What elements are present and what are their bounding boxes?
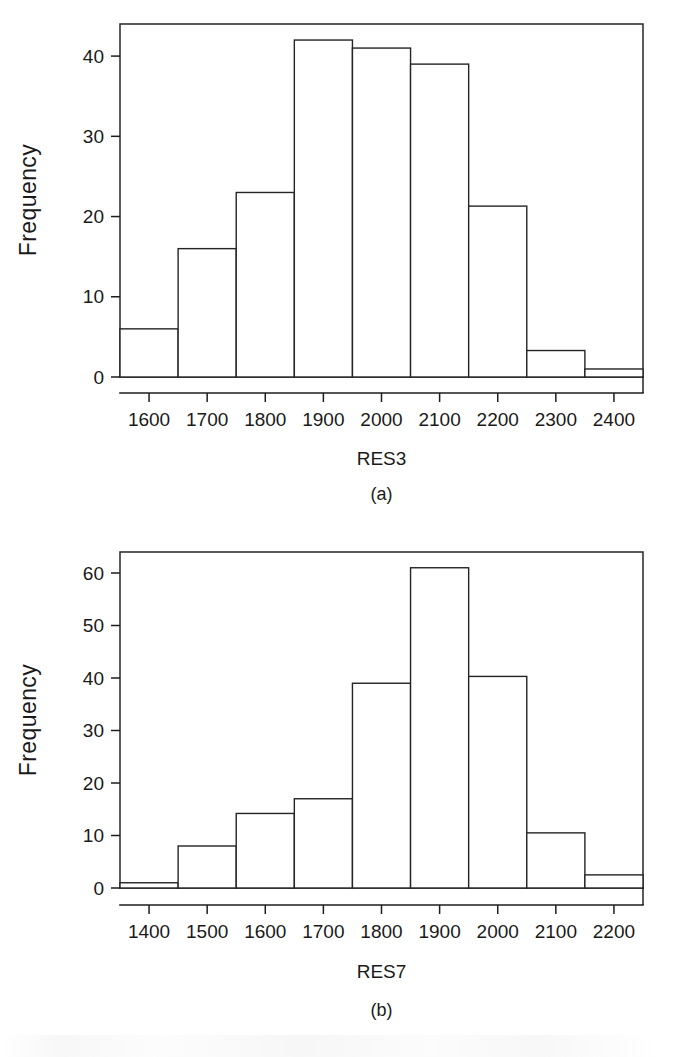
x-axis-tick-label: 1800 [244,409,286,430]
y-axis-tick-label: 30 [83,720,104,741]
x-axis-tick-label: 1400 [128,921,170,942]
x-axis-tick-label: 2000 [360,409,402,430]
histogram-chart-b: 0102030405060140015001600170018001900200… [0,520,673,1057]
histogram-bar [294,799,352,888]
x-axis-tick-label: 2100 [418,409,460,430]
histogram-bar [469,676,527,888]
x-axis-title: RES7 [357,961,407,982]
histogram-bar [469,206,527,377]
x-axis-tick-label: 2100 [535,921,577,942]
histogram-bar [294,40,352,377]
x-axis-tick-label: 2300 [535,409,577,430]
y-axis-title: Frequency [15,144,41,256]
histogram-chart-a: 0102030401600170018001900200021002200230… [0,0,673,520]
y-axis-tick-label: 60 [83,563,104,584]
histogram-bar [236,192,294,377]
x-axis-tick-label: 1600 [128,409,170,430]
histogram-bar [527,351,585,377]
x-axis-tick-label: 1900 [418,921,460,942]
y-axis-tick-label: 0 [93,878,104,899]
histogram-bar [120,329,178,377]
histogram-bar [585,369,643,377]
histogram-bar [236,813,294,888]
histogram-bar [178,846,236,888]
histogram-panel-b: 0102030405060140015001600170018001900200… [0,520,673,1057]
x-axis-tick-label: 2000 [477,921,519,942]
x-axis-tick-label: 2200 [477,409,519,430]
histogram-bar [585,875,643,888]
x-axis-tick-label: 1600 [244,921,286,942]
y-axis-tick-label: 10 [83,286,104,307]
panel-caption: (a) [371,484,393,504]
y-axis-tick-label: 20 [83,773,104,794]
histogram-panel-a: 0102030401600170018001900200021002200230… [0,0,673,520]
y-axis-tick-label: 10 [83,825,104,846]
x-axis-tick-label: 1500 [186,921,228,942]
y-axis-tick-label: 40 [83,46,104,67]
x-axis-tick-label: 2200 [593,921,635,942]
y-axis-tick-label: 30 [83,126,104,147]
histogram-bar [352,48,410,377]
histogram-bar [120,883,178,888]
y-axis-tick-label: 50 [83,615,104,636]
histogram-bar [411,64,469,377]
panel-caption: (b) [371,1000,393,1020]
x-axis-tick-label: 2400 [593,409,635,430]
histogram-bar [527,833,585,888]
histogram-bar [411,568,469,888]
x-axis-tick-label: 1700 [186,409,228,430]
y-axis-tick-label: 0 [93,367,104,388]
x-axis-tick-label: 1800 [360,921,402,942]
y-axis-title: Frequency [15,664,41,776]
x-axis-tick-label: 1700 [302,921,344,942]
x-axis-title: RES3 [357,448,407,469]
x-axis-tick-label: 1900 [302,409,344,430]
histogram-bar [178,249,236,377]
histogram-bar [352,683,410,888]
y-axis-tick-label: 20 [83,206,104,227]
y-axis-tick-label: 40 [83,668,104,689]
